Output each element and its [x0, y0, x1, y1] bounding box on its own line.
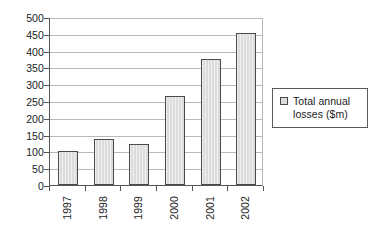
x-tick-label-2000: 2000 [168, 196, 180, 220]
x-tick-label-1999: 1999 [132, 196, 144, 220]
y-tick-label-100: 100 [0, 147, 44, 158]
y-tick-label-400: 400 [0, 47, 44, 58]
y-tick-label-350: 350 [0, 63, 44, 74]
bar-1997 [58, 151, 78, 185]
y-tick-label-300: 300 [0, 80, 44, 91]
y-tick-label-450: 450 [0, 30, 44, 41]
legend-label: Total annuallosses ($m) [293, 95, 350, 120]
y-tick-label-150: 150 [0, 131, 44, 142]
x-tick-mark-5 [263, 186, 264, 191]
x-tick-label-2001: 2001 [204, 196, 216, 220]
y-tick-label-0: 0 [0, 181, 44, 192]
x-tick-mark-origin [49, 186, 50, 191]
y-tick-label-250: 250 [0, 97, 44, 108]
x-tick-label-1997: 1997 [61, 196, 73, 220]
x-tick-label-1998: 1998 [97, 196, 109, 220]
bar-2002 [236, 33, 256, 185]
y-tick-label-50: 50 [0, 164, 44, 175]
bar-1998 [94, 139, 114, 185]
bar-series [50, 18, 262, 185]
x-tick-label-2002: 2002 [239, 196, 251, 220]
x-tick-mark-0 [85, 186, 86, 191]
legend-swatch-icon [280, 97, 288, 105]
plot-area [49, 18, 263, 186]
bar-2000 [165, 96, 185, 185]
x-tick-mark-3 [192, 186, 193, 191]
bar-1999 [129, 144, 149, 185]
x-tick-mark-4 [227, 186, 228, 191]
y-tick-label-500: 500 [0, 13, 44, 24]
x-tick-mark-1 [120, 186, 121, 191]
x-tick-mark-2 [156, 186, 157, 191]
y-tick-label-200: 200 [0, 114, 44, 125]
chart-legend: Total annuallosses ($m) [272, 88, 368, 128]
bar-2001 [201, 59, 221, 185]
bar-chart: 050100150200250300350400450500 199719981… [0, 0, 372, 237]
